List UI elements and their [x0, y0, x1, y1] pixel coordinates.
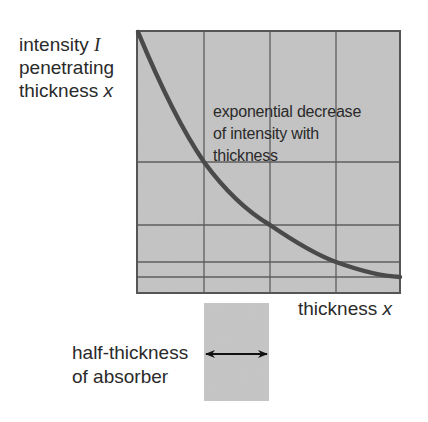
x-axis-symbol: x	[382, 298, 392, 319]
absorber-block	[204, 303, 269, 401]
curve-annotation-line3: thickness	[213, 145, 361, 167]
half-thickness-label-line2: of absorber	[72, 365, 188, 389]
half-thickness-label: half-thickness of absorber	[72, 341, 188, 389]
plot-area	[0, 0, 428, 422]
curve-annotation-line2: of intensity with	[213, 123, 361, 145]
x-axis-label-word: thickness	[298, 298, 377, 319]
x-axis-label: thickness x	[298, 298, 392, 320]
curve-annotation-line1: exponential decrease	[213, 101, 361, 123]
curve-annotation: exponential decrease of intensity with t…	[213, 101, 361, 167]
half-thickness-label-line1: half-thickness	[72, 341, 188, 365]
